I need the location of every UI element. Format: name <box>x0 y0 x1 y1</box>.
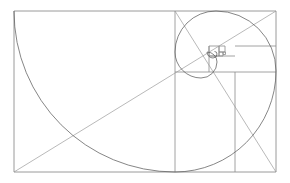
diagonal-major <box>14 11 276 172</box>
square-level-10 <box>223 52 226 55</box>
square-level-9 <box>219 52 223 56</box>
spiral-arc-2 <box>175 71 276 172</box>
golden-spiral-svg <box>0 0 290 183</box>
figure-canvas: Golden Ratio Fibonacci Spiral <box>0 0 290 183</box>
spiral-arc-1 <box>14 11 175 172</box>
diagonal-minor <box>175 11 276 172</box>
spiral-arc-10 <box>215 52 218 55</box>
spiral-arc-3 <box>216 11 276 71</box>
square-level-8 <box>219 46 225 52</box>
